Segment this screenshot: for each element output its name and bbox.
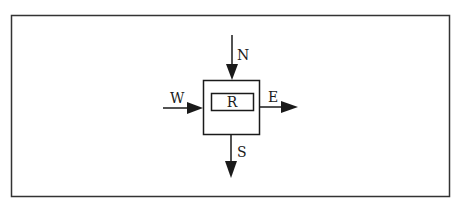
west-label: W (170, 90, 185, 106)
south-label: S (237, 144, 247, 160)
north-label: N (237, 47, 249, 63)
east-label: E (268, 89, 278, 105)
south-arrow (225, 134, 237, 178)
east-arrow (259, 101, 298, 113)
east-arrowhead-icon (281, 101, 298, 113)
north-arrowhead-icon (226, 64, 238, 80)
west-arrowhead-icon (187, 102, 203, 114)
diagram-canvas: R N W E S (0, 0, 458, 208)
south-arrowhead-icon (225, 161, 237, 178)
center-label: R (227, 94, 238, 110)
